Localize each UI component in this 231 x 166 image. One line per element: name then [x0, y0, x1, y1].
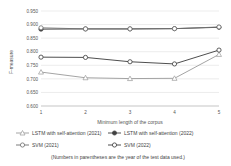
data-series-group	[39, 25, 222, 81]
y-tick-label: 0.650	[27, 90, 39, 95]
x-tick-label: 4	[173, 110, 176, 115]
x-axis-tick-labels: 12345	[40, 110, 221, 115]
chart-legend: LSTM with self-attention (2021)LSTM with…	[16, 130, 194, 148]
data-point-marker	[172, 62, 176, 66]
data-point-marker	[20, 143, 24, 147]
y-tick-label: 0.800	[27, 49, 39, 54]
data-point-marker	[39, 70, 44, 75]
x-tick-label: 5	[218, 110, 221, 115]
chart-container: 0.6000.6500.7000.7500.8000.8500.9000.950…	[0, 0, 231, 166]
line-chart: 0.6000.6500.7000.7500.8000.8500.9000.950…	[0, 0, 231, 166]
y-tick-label: 0.600	[27, 104, 39, 109]
data-point-marker	[128, 27, 132, 31]
legend-label: SVM (2022)	[124, 142, 151, 148]
data-point-marker	[217, 48, 221, 52]
y-tick-label: 0.850	[27, 36, 39, 41]
y-axis-title: F-measure	[8, 50, 14, 74]
x-tick-label: 2	[84, 110, 87, 115]
x-axis-title: Minimum length of the corpus	[97, 119, 163, 125]
legend-note: (Numbers in parentheses are the year of …	[51, 154, 185, 160]
data-point-marker	[112, 131, 116, 135]
y-tick-label: 0.750	[27, 63, 39, 68]
data-point-marker	[83, 27, 87, 31]
y-tick-label: 0.900	[27, 22, 39, 27]
data-point-marker	[39, 55, 43, 59]
data-point-marker	[39, 26, 43, 30]
data-point-marker	[128, 60, 132, 64]
y-tick-label: 0.950	[27, 9, 39, 14]
y-tick-label: 0.700	[27, 77, 39, 82]
legend-label: SVM (2021)	[32, 142, 59, 148]
y-axis-tick-labels: 0.6000.6500.7000.7500.8000.8500.9000.950	[27, 9, 39, 109]
legend-label: LSTM with self-attention (2021)	[32, 130, 102, 136]
x-tick-label: 1	[40, 110, 43, 115]
data-series	[39, 25, 221, 31]
data-point-marker	[172, 27, 176, 31]
data-series	[39, 48, 221, 66]
data-series	[39, 52, 222, 81]
data-point-marker	[217, 52, 222, 57]
data-point-marker	[112, 143, 116, 147]
data-point-marker	[217, 25, 221, 29]
x-tick-label: 3	[129, 110, 132, 115]
data-point-marker	[83, 55, 87, 59]
legend-label: LSTM with self-attention (2022)	[124, 130, 194, 136]
